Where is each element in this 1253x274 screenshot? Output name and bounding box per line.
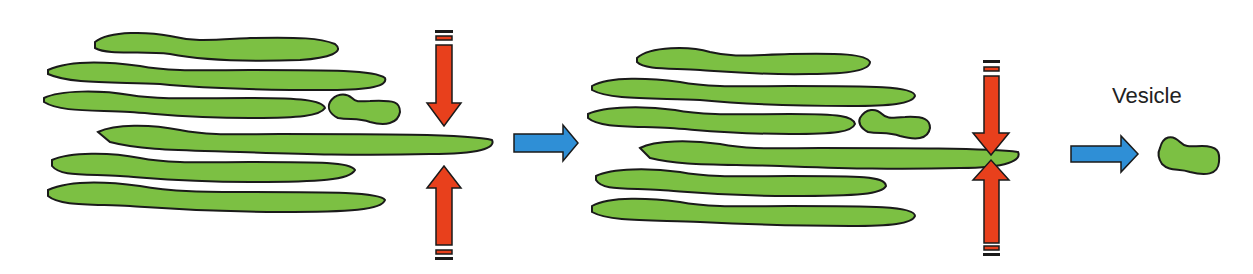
right-arrow-icon [1071,136,1138,172]
membrane [52,154,355,182]
up-arrow-icon [427,166,461,245]
budding-vesicle [329,95,400,124]
membrane [640,141,1019,168]
membrane [48,183,385,212]
membrane [95,33,338,61]
membrane [596,169,886,196]
membrane [637,48,870,74]
up-arrow-icon [973,160,1009,243]
right-arrow-icon [514,125,578,161]
vesicle [1159,137,1220,174]
budding-vesicle [859,110,930,138]
membrane [44,92,325,118]
membrane [48,63,385,90]
down-arrow-icon [973,76,1009,155]
stage-1-membranes [44,33,493,212]
membrane [588,107,855,134]
diagram-canvas: .mem{fill:#7cc043;stroke:#1a1a1a;stroke-… [0,0,1253,274]
vesicle-label: Vesicle [1112,83,1182,109]
membrane [98,126,493,155]
stage-2-membranes [588,48,1019,226]
membrane [592,79,915,106]
down-arrow-icon [427,45,461,126]
membrane [592,199,915,226]
